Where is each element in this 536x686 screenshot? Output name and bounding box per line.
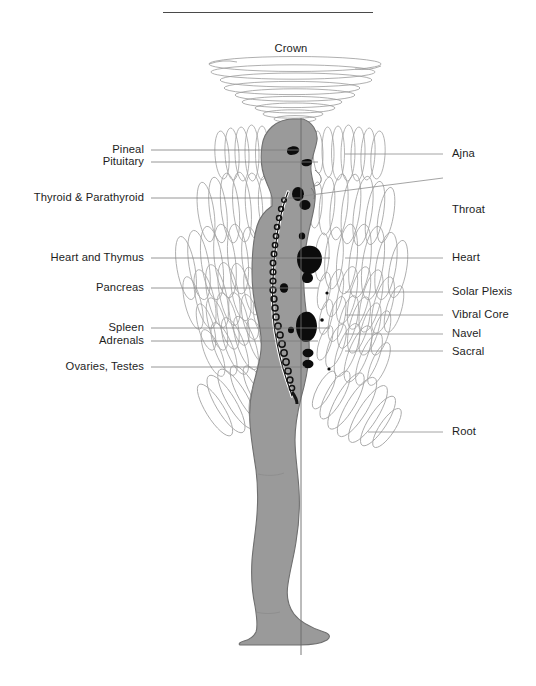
adrenal-marker — [325, 291, 328, 294]
crown-chakra-label: Crown — [241, 42, 341, 55]
thymus-gland — [299, 232, 305, 239]
label-vibral-core: Vibral Core — [452, 308, 509, 321]
label-root: Root — [452, 425, 476, 438]
spleen-organ — [296, 312, 317, 342]
label-throat: Throat — [452, 203, 485, 216]
label-sacral: Sacral — [452, 345, 484, 358]
label-solar-plexis: Solar Plexis — [452, 285, 512, 298]
label-thyroid-parathyroid: Thyroid & Parathyroid — [0, 191, 144, 204]
gonad-marker — [327, 367, 330, 370]
label-navel: Navel — [452, 327, 481, 340]
thyroid-gland — [292, 187, 304, 201]
label-ovaries-testes: Ovaries, Testes — [0, 360, 144, 373]
label-ajna: Ajna — [452, 147, 475, 160]
label-heart: Heart — [452, 251, 480, 264]
label-pituitary: Pituitary — [0, 155, 144, 168]
chakra-diagram-figure: Crown Pineal Pituitary Thyroid & Parathy… — [0, 0, 536, 686]
label-heart-and-thymus: Heart and Thymus — [0, 251, 144, 264]
label-pancreas: Pancreas — [0, 281, 144, 294]
gonad-upper — [303, 349, 314, 357]
crown-chakra-spiral — [209, 57, 381, 123]
label-spleen: Spleen — [0, 321, 144, 334]
adrenal-gland-right — [320, 318, 324, 322]
label-adrenals: Adrenals — [0, 334, 144, 347]
